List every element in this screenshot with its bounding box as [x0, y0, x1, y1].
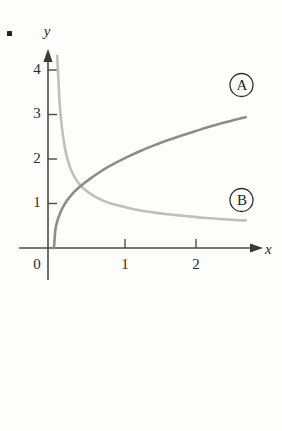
- origin-label: 0: [30, 255, 44, 273]
- y-tick-label-2: 2: [30, 149, 44, 167]
- bullet-dot-icon: [7, 31, 12, 36]
- y-axis-label: y: [40, 22, 54, 40]
- figure-root: 4 3 2 1 1 2 0 x y A B: [0, 0, 282, 431]
- y-axis-arrow-icon: [43, 49, 52, 62]
- y-tick-label-4: 4: [30, 60, 44, 78]
- curve-a-path: [54, 117, 246, 248]
- y-tick-label-1: 1: [30, 193, 44, 211]
- curve-b-path: [57, 56, 246, 221]
- x-tick-label-1: 1: [118, 255, 132, 273]
- legend-label-a: A: [234, 76, 250, 94]
- y-tick-label-3: 3: [30, 104, 44, 122]
- x-axis-arrow-icon: [250, 243, 263, 252]
- legend-label-b: B: [234, 191, 250, 209]
- x-axis-label: x: [265, 240, 279, 258]
- x-tick-label-2: 2: [189, 255, 203, 273]
